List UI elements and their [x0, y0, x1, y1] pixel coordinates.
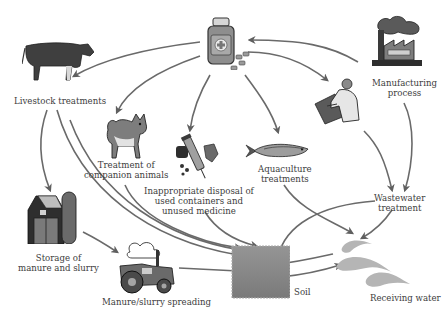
cow-icon — [22, 38, 94, 86]
wastewater-treatment-label: Wastewater treatment — [374, 193, 425, 213]
storage-manure-label: Storage of manure and slurry — [18, 253, 99, 273]
receiving-water-label: Receiving water — [370, 293, 441, 303]
factory-icon — [368, 14, 426, 72]
arrow-manufacturing-to-medicine — [250, 40, 358, 62]
companion-animals-label: Treatment of companion animals — [84, 160, 168, 180]
livestock-treatments-label: Livestock treatments — [14, 96, 106, 106]
inappropriate-disposal-label: Inappropriate disposal of used container… — [144, 186, 254, 216]
arrow-livestock-to-storage — [41, 110, 50, 190]
manufacturing-process-label: Manufacturing process — [372, 78, 437, 98]
aquaculture-treatments-label: Aquaculture treatments — [258, 164, 312, 184]
arrow-pharmacist-to-wastewater — [364, 131, 392, 190]
arrow-manufacturing-to-wastewater — [404, 103, 412, 190]
arrow-disposal-to-soil — [205, 212, 256, 246]
tractor-icon — [112, 240, 178, 296]
arrow-medicine-to-aquaculture — [245, 75, 278, 132]
soil-block-icon — [230, 244, 290, 300]
arrow-medicine-to-disposal — [190, 75, 210, 130]
pharmaceutical-pathway-diagram: Livestock treatments Treatment of compan… — [0, 0, 444, 319]
arrow-medicine-to-companion — [117, 56, 200, 112]
water-waves-icon — [336, 234, 416, 290]
dog-icon — [98, 108, 150, 160]
pharmacist-icon — [313, 76, 363, 126]
arrow-aquaculture-to-water — [284, 185, 352, 233]
syringe-waste-icon — [174, 132, 222, 182]
manure-spreading-label: Manure/slurry spreading — [102, 297, 211, 307]
fish-icon — [244, 141, 312, 161]
barn-icon — [26, 188, 82, 244]
medicine-bottle-icon — [203, 15, 253, 70]
soil-label: Soil — [294, 287, 311, 297]
